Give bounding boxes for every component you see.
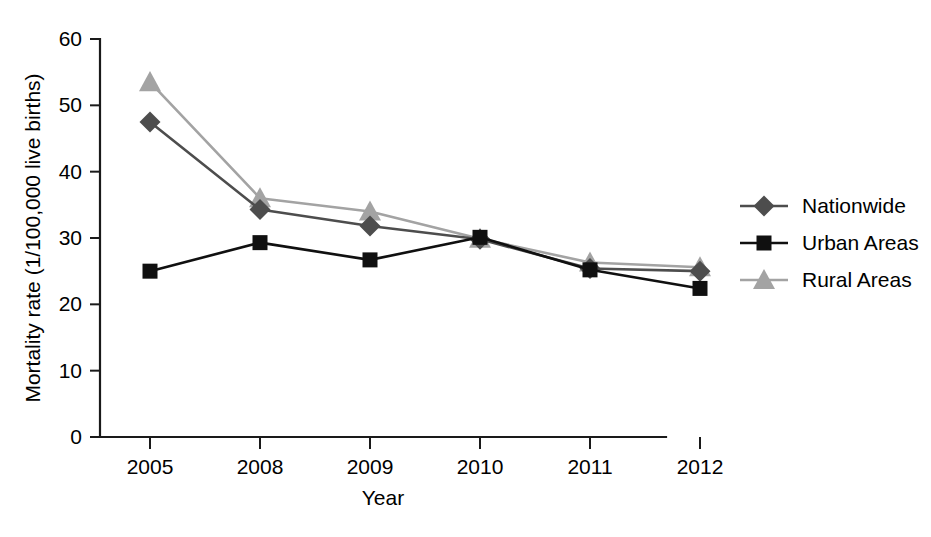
y-tick-label: 10 <box>59 359 82 382</box>
x-tick-label: 2012 <box>677 455 724 478</box>
series-layer <box>139 71 711 296</box>
data-point-marker <box>139 71 161 91</box>
series-nationwide <box>140 111 711 281</box>
legend-item-label: Nationwide <box>802 194 906 217</box>
chart-legend: NationwideUrban AreasRural Areas <box>740 194 919 291</box>
x-tick-label: 2009 <box>347 455 394 478</box>
legend-item-label: Urban Areas <box>802 231 919 254</box>
y-tick-label: 0 <box>70 425 82 448</box>
data-point-marker <box>253 235 268 250</box>
legend-item-rural-areas[interactable]: Rural Areas <box>740 268 912 291</box>
series-rural-areas <box>139 71 711 276</box>
chart-container: 0102030405060 200520082009201020112012 M… <box>0 0 931 537</box>
legend-item-label: Rural Areas <box>802 268 912 291</box>
y-tick-label: 20 <box>59 292 82 315</box>
data-point-marker <box>473 230 488 245</box>
x-tick-label: 2005 <box>127 455 174 478</box>
data-point-marker <box>690 261 711 282</box>
legend-marker-icon <box>757 236 772 251</box>
y-tick-label: 50 <box>59 93 82 116</box>
y-axis-ticks: 0102030405060 <box>59 27 100 448</box>
data-point-marker <box>693 281 708 296</box>
y-tick-label: 40 <box>59 160 82 183</box>
x-axis-ticks: 200520082009201020112012 <box>127 437 724 478</box>
x-axis-title: Year <box>362 486 404 509</box>
data-point-marker <box>363 252 378 267</box>
legend-item-nationwide[interactable]: Nationwide <box>740 194 906 217</box>
y-tick-label: 30 <box>59 226 82 249</box>
legend-marker-icon <box>754 196 775 217</box>
x-tick-label: 2010 <box>457 455 504 478</box>
data-point-marker <box>583 262 598 277</box>
series-line <box>150 82 700 267</box>
data-point-marker <box>143 264 158 279</box>
x-tick-label: 2008 <box>237 455 284 478</box>
line-chart: 0102030405060 200520082009201020112012 M… <box>0 0 931 537</box>
plot-axes <box>100 39 666 437</box>
y-tick-label: 60 <box>59 27 82 50</box>
x-tick-label: 2011 <box>567 455 612 478</box>
legend-item-urban-areas[interactable]: Urban Areas <box>740 231 919 254</box>
y-axis-title: Mortality rate (1/100,000 live births) <box>21 73 44 402</box>
